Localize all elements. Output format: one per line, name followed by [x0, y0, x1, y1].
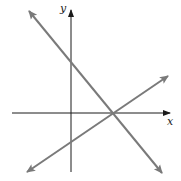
diagram-canvas: [0, 0, 181, 181]
x-axis-label: x: [167, 115, 173, 128]
decreasing-line: [29, 11, 162, 173]
coordinate-diagram: y x: [0, 0, 181, 181]
y-axis-label: y: [60, 2, 66, 15]
increasing-line: [27, 76, 168, 172]
